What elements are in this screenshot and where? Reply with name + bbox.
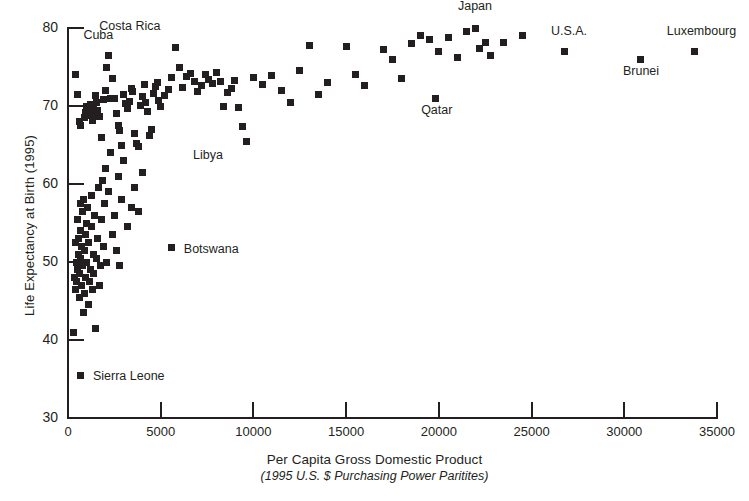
data-point [417, 32, 424, 39]
data-point [500, 39, 507, 46]
data-point [116, 262, 123, 269]
data-point [198, 82, 205, 89]
data-point [135, 143, 142, 150]
data-point [250, 74, 257, 81]
data-point [176, 64, 183, 71]
data-point [209, 80, 216, 87]
data-point [99, 177, 106, 184]
annotation-label: Costa Rica [99, 19, 160, 33]
data-point [82, 231, 89, 238]
data-point [482, 39, 489, 46]
annotation-label: Japan [458, 0, 492, 13]
y-axis-line [67, 27, 69, 419]
data-point [116, 127, 123, 134]
data-point [118, 196, 125, 203]
data-point [88, 223, 95, 230]
data-point [74, 91, 81, 98]
data-point [72, 71, 79, 78]
data-point [296, 67, 303, 74]
data-point [85, 301, 92, 308]
data-point [220, 103, 227, 110]
data-point [432, 95, 439, 102]
data-point [74, 216, 81, 223]
x-axis-tick [252, 402, 254, 419]
y-axis-tick-label: 70 [18, 97, 58, 113]
data-point [86, 278, 93, 285]
data-point [519, 32, 526, 39]
data-point [105, 52, 112, 59]
data-point [172, 44, 179, 51]
data-point [107, 149, 114, 156]
data-point [98, 216, 105, 223]
data-point [231, 77, 238, 84]
data-point [691, 48, 698, 55]
data-point [81, 290, 88, 297]
data-point [352, 71, 359, 78]
data-point [80, 196, 87, 203]
data-point [80, 309, 87, 316]
data-point [113, 110, 120, 117]
data-point [139, 169, 146, 176]
annotation-label: Brunei [623, 64, 659, 78]
data-point [235, 104, 242, 111]
data-point [157, 103, 164, 110]
data-point [165, 86, 172, 93]
data-point [102, 165, 109, 172]
data-point [213, 69, 220, 76]
x-axis-title-main: Per Capita Gross Domestic Product [0, 452, 749, 467]
data-point [179, 84, 186, 91]
data-point [70, 329, 77, 336]
x-axis-tick [438, 402, 440, 419]
data-point [96, 282, 103, 289]
data-point [103, 259, 110, 266]
data-point [148, 126, 155, 133]
x-axis-tick-label: 15000 [306, 424, 386, 439]
y-axis-top-tick [67, 27, 84, 29]
y-axis-tick-label: 80 [18, 19, 58, 35]
data-point [268, 72, 275, 79]
data-point [131, 130, 138, 137]
x-axis-tick [345, 402, 347, 419]
data-point [154, 79, 161, 86]
data-point [92, 325, 99, 332]
data-point [78, 282, 85, 289]
data-point [111, 95, 118, 102]
x-axis-tick [160, 402, 162, 419]
data-point [191, 78, 198, 85]
y-axis-tick [67, 105, 84, 107]
y-axis-tick-label: 40 [18, 331, 58, 347]
annotation-label: Botswana [184, 242, 239, 256]
data-point [146, 132, 153, 139]
data-point [398, 75, 405, 82]
annotation-label: Libya [193, 148, 223, 162]
annotation-label: Sierra Leone [93, 369, 165, 383]
data-point [96, 113, 103, 120]
data-point [144, 108, 151, 115]
x-axis-tick-label: 25000 [492, 424, 572, 439]
data-point [454, 54, 461, 61]
x-axis-tick [531, 402, 533, 419]
y-axis-tick [67, 183, 84, 185]
data-point [120, 157, 127, 164]
data-point [463, 28, 470, 35]
data-point [88, 192, 95, 199]
data-point [287, 99, 294, 106]
data-point [142, 99, 149, 106]
y-axis-tick-label: 30 [18, 409, 58, 425]
data-point [113, 247, 120, 254]
data-point [89, 286, 96, 293]
x-axis-end-tick [716, 402, 718, 419]
x-axis-tick-label: 5000 [121, 424, 201, 439]
data-point [324, 79, 331, 86]
data-point [217, 78, 224, 85]
data-point [445, 34, 452, 41]
data-point [118, 142, 125, 149]
data-point [361, 82, 368, 89]
data-point [90, 270, 97, 277]
annotation-label: Qatar [421, 103, 452, 117]
data-point [124, 105, 131, 112]
x-axis-tick-label: 20000 [399, 424, 479, 439]
x-axis-tick-label: 0 [28, 424, 108, 439]
data-point [81, 247, 88, 254]
y-axis-tick-label: 50 [18, 253, 58, 269]
